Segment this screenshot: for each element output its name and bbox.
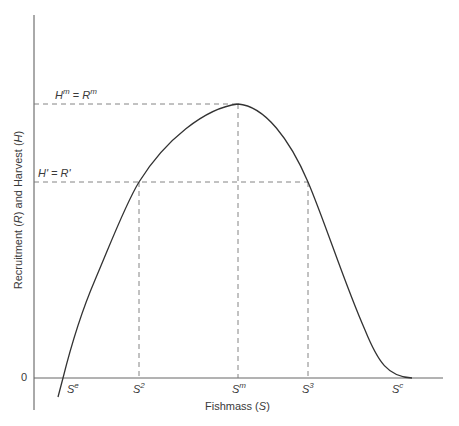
sm-sup: m (239, 381, 246, 390)
sc-sup: c (399, 381, 403, 390)
se-sup: e (74, 381, 78, 390)
y-zero-tick-label: 0 (21, 372, 27, 383)
ylabel-post: ) (12, 131, 24, 135)
s2-tick-label: S2 (133, 384, 145, 395)
sc-tick-label: Sc (392, 384, 403, 395)
ylabel-mid: ) and Harvest ( (12, 142, 24, 215)
s3-sup: 3 (309, 381, 313, 390)
hm-r: R (82, 89, 90, 101)
hm-r-sup: m (90, 87, 97, 96)
recruitment-curve (58, 104, 412, 397)
y-axis-label: Recruitment (R) and Harvest (H) (12, 115, 24, 305)
hm-annotation: Hm = Rm (55, 90, 97, 101)
s2-sup: 2 (140, 381, 144, 390)
ylabel-h: H (12, 135, 24, 143)
hprime-annotation: H' = R' (38, 168, 71, 179)
hm-eq: = (70, 89, 83, 101)
ylabel-r: R (12, 215, 24, 223)
sm-tick-label: Sm (232, 384, 246, 395)
chart-canvas (0, 0, 459, 426)
ylabel-pre: Recruitment ( (12, 223, 24, 289)
reference-lines (34, 104, 308, 378)
x-axis-label: Fishmass (S) (205, 401, 270, 412)
xlabel-post: ) (266, 400, 270, 412)
hm-h-sup: m (63, 87, 70, 96)
se-tick-label: Se (67, 384, 79, 395)
hm-h: H (55, 89, 63, 101)
xlabel-pre: Fishmass ( (205, 400, 259, 412)
s3-tick-label: S3 (302, 384, 314, 395)
